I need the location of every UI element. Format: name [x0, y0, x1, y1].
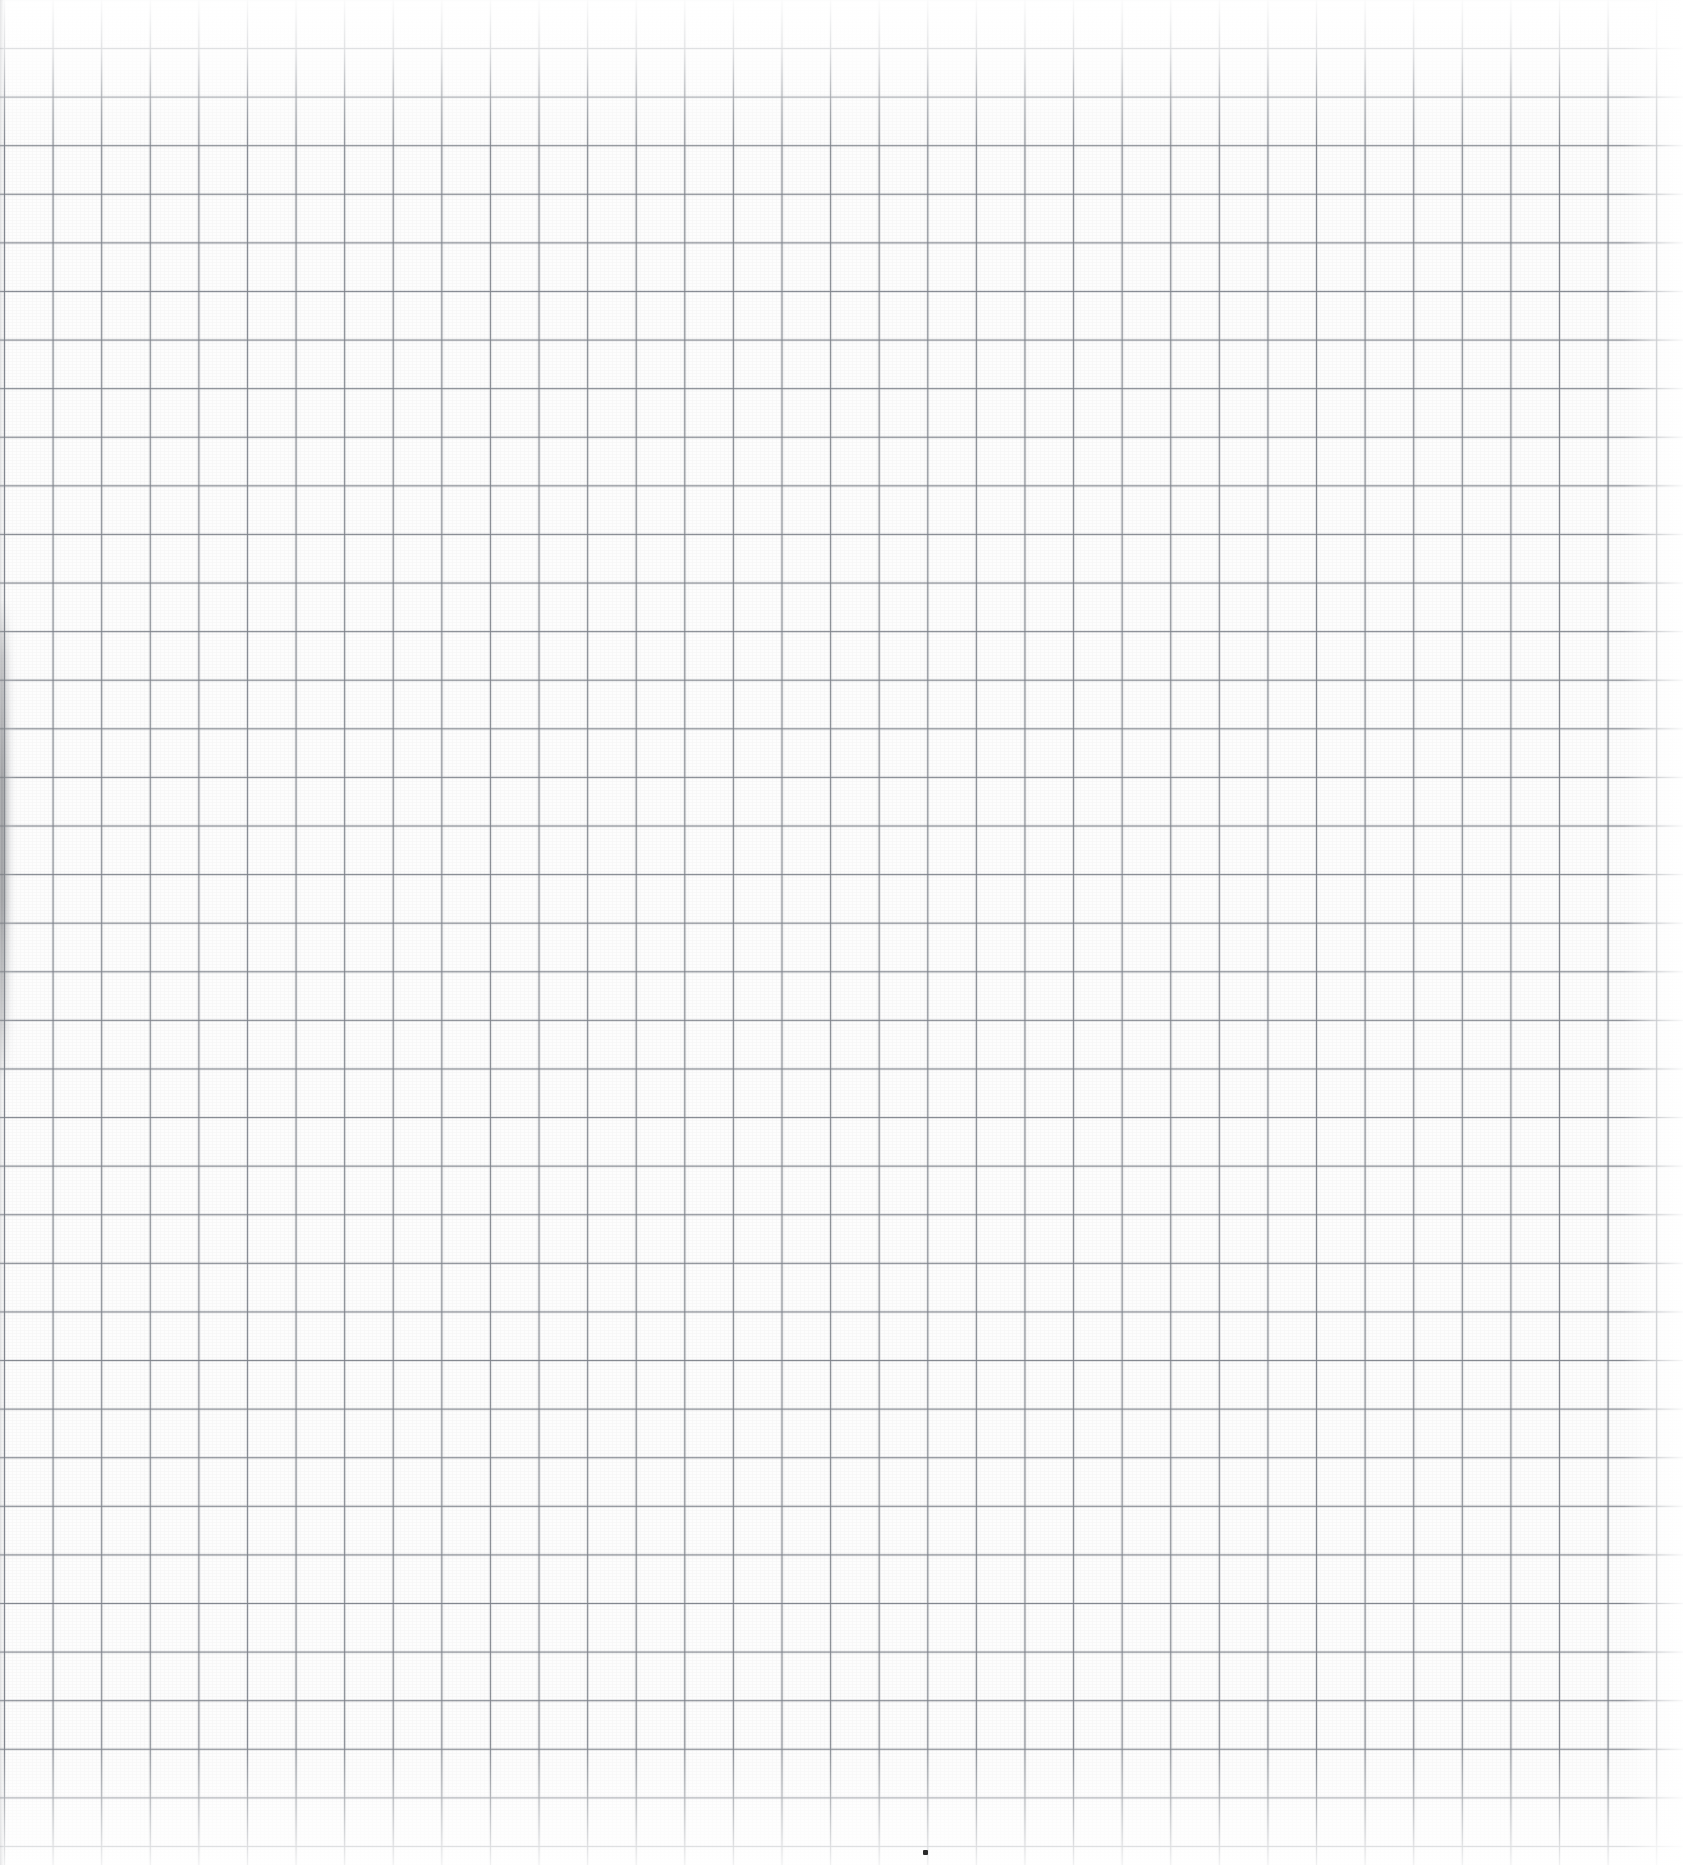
ink-dot-mark [923, 1850, 928, 1855]
grid-lines [0, 0, 1683, 1865]
grid-paper-sheet: Blank grid paper sheet Scanned sheet of … [0, 0, 1683, 1865]
